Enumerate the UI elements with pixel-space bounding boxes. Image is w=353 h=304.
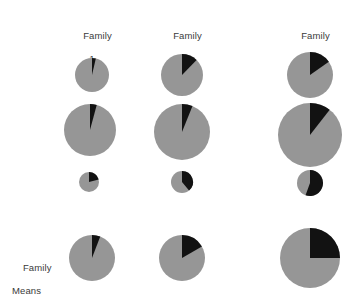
pie-slice-black (310, 228, 340, 258)
pie-r1-c1 (154, 104, 210, 160)
pie-r2-c1 (171, 171, 193, 193)
pie-r0-c1 (161, 54, 203, 96)
pie-r0-c0 (75, 58, 109, 92)
pie-r1-c2 (278, 103, 342, 167)
pie-r3-c0 (69, 235, 115, 281)
pie-r0-c2 (287, 52, 333, 98)
pie-r2-c0 (79, 172, 99, 192)
pie-r3-c1 (159, 235, 205, 281)
pie-r2-c2 (297, 170, 323, 196)
pie-chart-figure: Family 1 Family 2 Family 3 Family Means (0, 0, 353, 304)
pie-chart-canvas (0, 0, 353, 304)
pie-r1-c0 (64, 104, 116, 156)
pie-r3-c2 (280, 228, 340, 288)
